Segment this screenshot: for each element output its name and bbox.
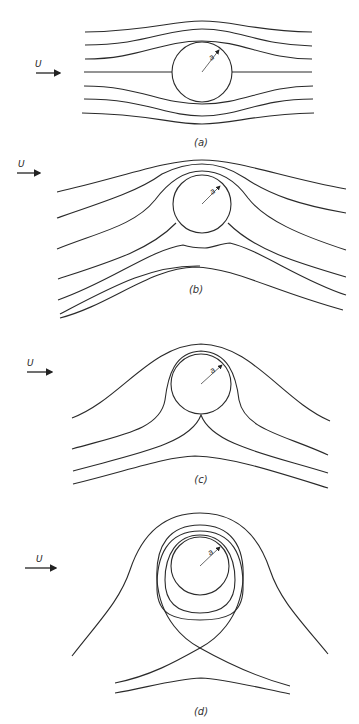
caption-a: (a) bbox=[194, 137, 208, 148]
flow-label-d: U bbox=[36, 554, 43, 564]
caption-b: (b) bbox=[189, 284, 203, 295]
panel-b bbox=[17, 160, 346, 318]
flow-label-a: U bbox=[35, 59, 42, 69]
streamline-diagram bbox=[0, 0, 359, 724]
panel-a bbox=[36, 21, 314, 124]
flow-label-b: U bbox=[18, 159, 25, 169]
caption-d: (d) bbox=[194, 706, 208, 717]
caption-c: (c) bbox=[194, 474, 207, 485]
panel-d bbox=[25, 513, 328, 694]
flow-label-c: U bbox=[27, 358, 34, 368]
panel-c bbox=[27, 344, 330, 488]
